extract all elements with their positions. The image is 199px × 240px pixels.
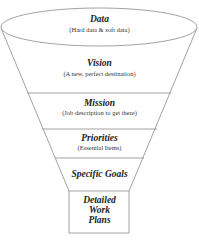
stage-mission-title: Mission [0, 98, 199, 108]
stage-mission-subtitle: (Job description to get there) [0, 109, 199, 116]
stage-data-subtitle: (Hard data & soft data) [0, 26, 199, 33]
detailed-line-3: Plans [69, 215, 130, 225]
detailed-line-2: Work [69, 205, 130, 215]
stage-vision-title: Vision [0, 58, 199, 68]
stage-data-title: Data [0, 14, 199, 24]
stage-priorities-title: Priorities [0, 133, 199, 143]
stage-priorities-subtitle: (Essential Items) [0, 144, 199, 151]
stage-specific-goals-title: Specific Goals [0, 169, 199, 179]
stage-vision-subtitle: (A new, perfect destination) [0, 70, 199, 77]
stage-detailed-work-plans: Detailed Work Plans [69, 195, 130, 225]
detailed-line-1: Detailed [69, 195, 130, 205]
